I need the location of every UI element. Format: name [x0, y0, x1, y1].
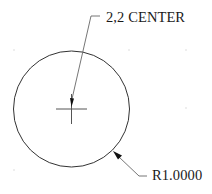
radius-leader	[113, 151, 147, 176]
grid-dots	[14, 50, 187, 171]
radius-dimension-label: R1.0000	[152, 168, 202, 183]
cad-drawing-canvas: 2,2 CENTER R1.0000	[0, 0, 212, 194]
drawing-svg	[0, 0, 212, 194]
center-leader	[70, 16, 100, 107]
center-annotation-label: 2,2 CENTER	[106, 10, 185, 25]
